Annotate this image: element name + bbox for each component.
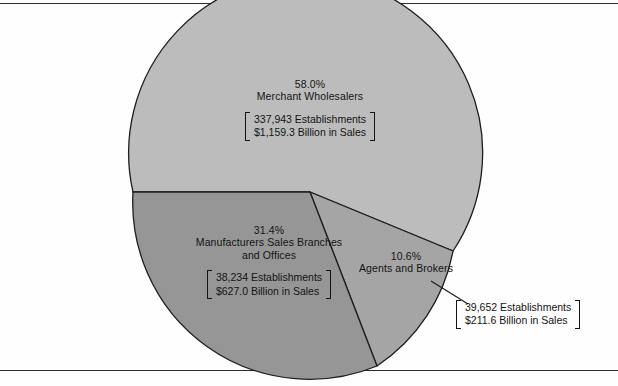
stat-sales-agents-and-brokers: $211.6 Billion in Sales [465, 314, 571, 327]
stat-sales-manufacturers: $627.0 Billion in Sales [216, 285, 322, 298]
slice-stats-manufacturers-sales-branches: 38,234 Establishments $627.0 Billion in … [207, 270, 331, 299]
slice-name-merchant-wholesalers: Merchant Wholesalers [196, 90, 424, 102]
stat-establishments-agents-and-brokers: 39,652 Establishments [465, 301, 571, 314]
slice-percent-merchant-wholesalers: 58.0% [196, 78, 424, 90]
slice-percent-agents-and-brokers: 10.6% [332, 250, 480, 262]
slice-name-manufacturers-line-1: Manufacturers Sales Branches [155, 236, 383, 248]
slice-stats-agents-and-brokers: 39,652 Establishments $211.6 Billion in … [456, 300, 580, 329]
slice-name-agents-and-brokers: Agents and Brokers [332, 262, 480, 274]
slice-percent-manufacturers-sales-branches: 31.4% [155, 224, 383, 236]
slice-stats-merchant-wholesalers: 337,943 Establishments $1,159.3 Billion … [245, 112, 375, 141]
slice-callout-agents-and-brokers: 39,652 Establishments $211.6 Billion in … [456, 300, 606, 329]
stat-establishments-merchant-wholesalers: 337,943 Establishments [254, 113, 366, 126]
slice-label-agents-and-brokers: 10.6% Agents and Brokers [332, 250, 480, 275]
stat-sales-merchant-wholesalers: $1,159.3 Billion in Sales [254, 126, 366, 139]
stat-establishments-manufacturers: 38,234 Establishments [216, 271, 322, 284]
pie-chart-figure: 58.0% Merchant Wholesalers 337,943 Estab… [0, 0, 618, 386]
slice-label-merchant-wholesalers: 58.0% Merchant Wholesalers 337,943 Estab… [196, 78, 424, 141]
